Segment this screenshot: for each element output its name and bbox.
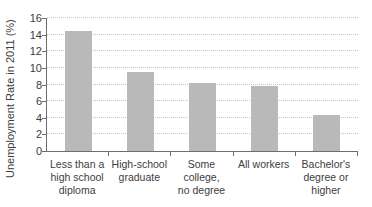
x-category-label-4: Bachelor'sdegree orhigher xyxy=(295,158,357,197)
x-tick-mark-3 xyxy=(233,152,234,156)
x-category-label-0: Less than ahigh schooldiploma xyxy=(46,158,108,197)
plot-area xyxy=(46,18,358,152)
x-category-label-1: High-schoolgraduate xyxy=(108,158,170,197)
bar-3 xyxy=(251,86,278,151)
x-axis-category-labels: Less than ahigh schooldiplomaHigh-school… xyxy=(46,158,357,197)
y-tick-label-0: 0 xyxy=(20,145,42,158)
y-tick-label-8: 8 xyxy=(20,79,42,92)
y-tick-mark-12 xyxy=(42,51,46,52)
x-category-label-3: All workers xyxy=(233,158,295,197)
y-tick-label-4: 4 xyxy=(20,112,42,125)
y-tick-label-16: 16 xyxy=(20,12,42,25)
y-tick-mark-2 xyxy=(42,134,46,135)
y-tick-label-12: 12 xyxy=(20,45,42,58)
x-category-label-2: Some college,no degree xyxy=(170,158,232,197)
gridline-12 xyxy=(47,50,358,51)
bar-2 xyxy=(189,83,216,151)
x-tick-mark-5 xyxy=(357,152,358,156)
y-tick-label-10: 10 xyxy=(20,62,42,75)
y-tick-label-2: 2 xyxy=(20,128,42,141)
x-tick-mark-4 xyxy=(295,152,296,156)
y-tick-label-14: 14 xyxy=(20,29,42,42)
gridline-16 xyxy=(47,17,358,18)
unemployment-bar-chart: Unemployment Rate in 2011 (%) Less than … xyxy=(0,0,372,207)
gridline-14 xyxy=(47,34,358,35)
bar-1 xyxy=(127,72,154,151)
bar-4 xyxy=(313,115,340,151)
gridline-10 xyxy=(47,67,358,68)
y-tick-mark-14 xyxy=(42,35,46,36)
y-tick-mark-0 xyxy=(42,151,46,152)
y-axis-title: Unemployment Rate in 2011 (%) xyxy=(4,6,20,192)
y-tick-mark-4 xyxy=(42,118,46,119)
y-tick-mark-10 xyxy=(42,68,46,69)
y-tick-label-6: 6 xyxy=(20,95,42,108)
x-tick-mark-2 xyxy=(170,152,171,156)
y-tick-mark-8 xyxy=(42,85,46,86)
y-tick-mark-16 xyxy=(42,18,46,19)
bar-0 xyxy=(65,31,92,151)
y-tick-mark-6 xyxy=(42,101,46,102)
x-tick-mark-1 xyxy=(108,152,109,156)
